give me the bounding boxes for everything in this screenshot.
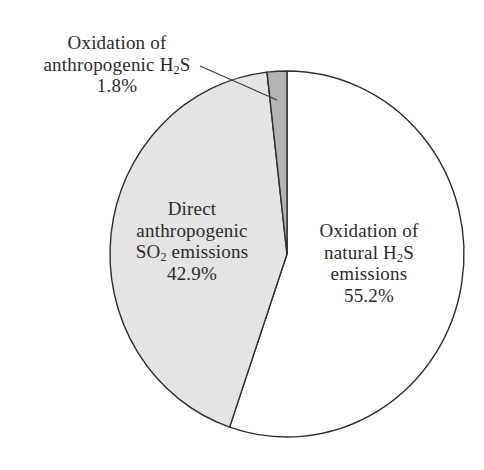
label-line: Oxidation of <box>32 32 202 54</box>
label-line: emissions <box>303 263 435 285</box>
label-percent: 42.9% <box>112 263 272 285</box>
label-direct-so2: Direct anthropogenic SO2 emissions 42.9% <box>112 198 272 284</box>
label-line: Oxidation of <box>303 220 435 242</box>
label-percent: 55.2% <box>303 285 435 307</box>
label-line: Direct <box>112 198 272 220</box>
label-anthropogenic-h2s: Oxidation of anthropogenic H2S 1.8% <box>32 32 202 97</box>
label-percent: 1.8% <box>32 75 202 97</box>
label-line: anthropogenic H2S <box>32 54 202 76</box>
label-line: natural H2S <box>303 242 435 264</box>
label-line: anthropogenic <box>112 220 272 242</box>
label-natural-h2s: Oxidation of natural H2S emissions 55.2% <box>303 220 435 306</box>
label-line: SO2 emissions <box>112 241 272 263</box>
